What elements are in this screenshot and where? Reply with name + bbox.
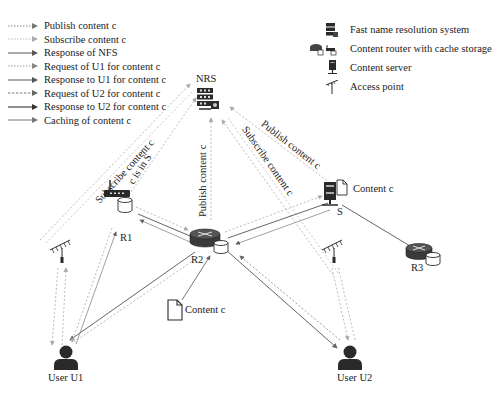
- legend-item-caching: Caching of content c: [8, 114, 166, 128]
- legend-label: Access point: [350, 81, 404, 92]
- dashed-arrow-icon: [8, 90, 38, 96]
- edge-ap-u1: [52, 268, 66, 345]
- server-rack-icon: [326, 23, 338, 37]
- legend-label: Request of U1 for content c: [44, 61, 160, 72]
- s-document-icon: [337, 180, 347, 195]
- legend-node-types: Fast name resolution system Content rout…: [318, 20, 492, 96]
- legend-label: Publish content c: [44, 20, 116, 31]
- access-point-right-icon[interactable]: [322, 240, 342, 263]
- nrs-label: NRS: [196, 73, 216, 84]
- legend-item-request-u1: Request of U1 for content c: [8, 60, 166, 74]
- solid-light-arrow-icon: [8, 117, 38, 123]
- legend-item-response-u2: Response to U2 for content c: [8, 100, 166, 114]
- user-u1-avatar-icon[interactable]: [54, 346, 78, 371]
- legend-item-subscribe: Subscribe content c: [8, 33, 166, 47]
- content-server-icon: [328, 60, 338, 75]
- edge-s-r3: [342, 205, 410, 246]
- r2-router-cache-icon[interactable]: [190, 229, 228, 254]
- dotted-arrow-icon: [8, 63, 38, 69]
- edge-r2-s: [225, 196, 330, 244]
- router-cache-icon: [310, 42, 338, 56]
- legend-item-access-point: Access point: [318, 77, 492, 96]
- legend-item-content-server: Content server: [318, 58, 492, 77]
- legend-label: Request of U2 for content c: [44, 88, 160, 99]
- legend-label: Response of NFS: [44, 47, 118, 58]
- legend-item-response-u1: Response to U1 for content c: [8, 73, 166, 87]
- dotted-light-arrow-icon: [8, 36, 38, 42]
- legend-edge-types: Publish content c Subscribe content c Re…: [8, 19, 166, 127]
- edge-r2-u1: [70, 252, 200, 342]
- legend-item-response-nfs: Response of NFS: [8, 46, 166, 60]
- content-r2-label: Content c: [185, 304, 226, 315]
- legend-item-nrs: Fast name resolution system: [318, 20, 492, 39]
- nrs-server-rack-icon[interactable]: [197, 88, 219, 109]
- user-u1-label: User U1: [48, 372, 83, 383]
- edge-r2-u2: [226, 250, 340, 348]
- r2-label: R2: [191, 254, 203, 265]
- r3-label: R3: [411, 262, 423, 273]
- user-u2-avatar-icon[interactable]: [338, 346, 362, 371]
- edge-r1-r2: [136, 207, 190, 242]
- edge-label-publish-center: Publish content c: [197, 145, 208, 217]
- legend-label: Caching of content c: [44, 115, 131, 126]
- s-label: S: [337, 206, 343, 217]
- solid-arrow-icon: [8, 50, 38, 56]
- legend-item-content-router: Content router with cache storage: [318, 39, 492, 58]
- legend-label: Subscribe content c: [44, 34, 126, 45]
- solid-arrow-icon: [8, 77, 38, 83]
- user-u2-label: User U2: [337, 372, 372, 383]
- r1-label: R1: [120, 232, 132, 243]
- dotted-arrow-icon: [8, 23, 38, 29]
- content-server-label: Content c: [353, 183, 394, 194]
- legend-label: Response to U2 for content c: [44, 101, 166, 112]
- s-content-server-icon[interactable]: [322, 182, 338, 205]
- legend-item-publish: Publish content c: [8, 19, 166, 33]
- antenna-icon: [326, 80, 338, 94]
- edge-ap-u2: [332, 266, 355, 340]
- legend-label: Content server: [350, 62, 412, 73]
- edge-r1-u1: [72, 228, 116, 344]
- solid-dark-arrow-icon: [8, 104, 38, 110]
- content-document-icon: [168, 300, 182, 320]
- legend-label: Fast name resolution system: [350, 24, 469, 35]
- legend-label: Content router with cache storage: [350, 43, 492, 54]
- access-point-left-icon[interactable]: [50, 240, 70, 263]
- legend-label: Response to U1 for content c: [44, 74, 166, 85]
- legend-item-request-u2: Request of U2 for content c: [8, 87, 166, 101]
